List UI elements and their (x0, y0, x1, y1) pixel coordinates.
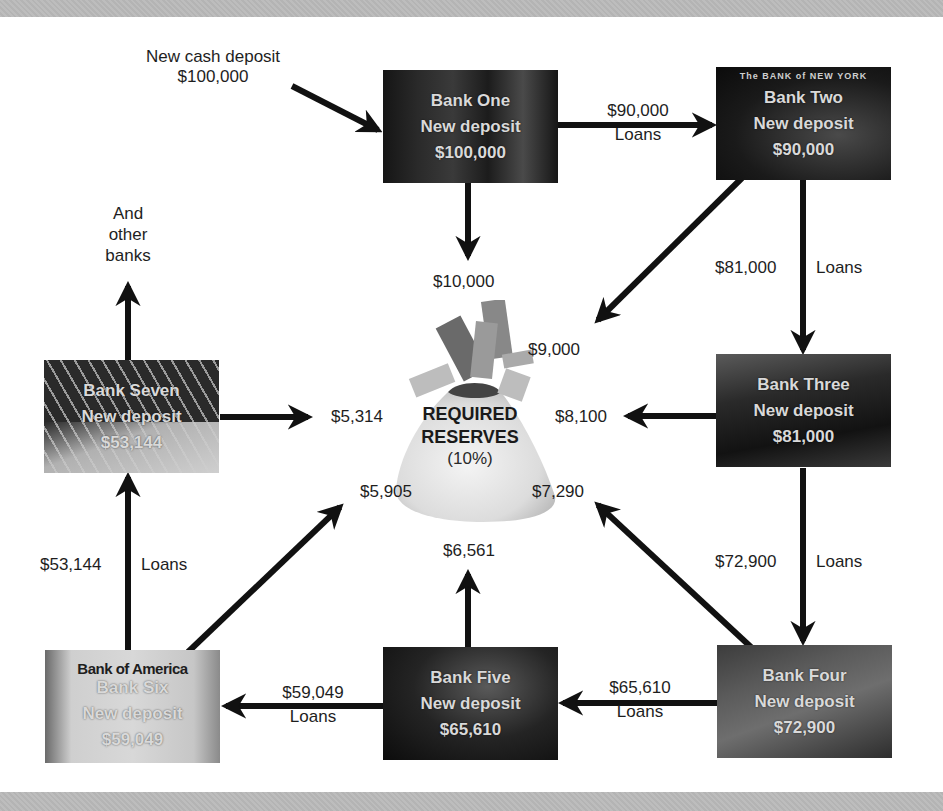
initial-deposit-label: New cash deposit $100,000 (133, 47, 293, 87)
other-banks-label: And other banks (88, 203, 168, 266)
loan-text: Loans (263, 707, 363, 727)
bank-one-box: Bank One New deposit $100,000 (383, 70, 558, 183)
photo-caption: The BANK of NEW YORK (716, 71, 891, 81)
deposit-amount: $65,610 (440, 720, 501, 740)
loan-amount: $90,000 (588, 101, 688, 121)
other-banks-line1: And (88, 203, 168, 224)
deposit-label: New deposit (754, 692, 854, 712)
deposit-amount: $53,144 (101, 433, 162, 453)
initial-deposit-text: New cash deposit (133, 47, 293, 67)
loan-text-3-4: Loans (816, 552, 862, 572)
deposit-label: New deposit (81, 407, 181, 427)
deposit-label: New deposit (753, 401, 853, 421)
other-banks-line2: other (88, 224, 168, 245)
bank-four-box: Bank Four New deposit $72,900 (717, 645, 892, 758)
loan-amount: $65,610 (590, 678, 690, 698)
loan-amount: $59,049 (263, 683, 363, 703)
deposit-amount: $81,000 (773, 427, 834, 447)
bank-name: Bank Six (97, 678, 169, 698)
deposit-label: New deposit (753, 114, 853, 134)
loan-text: Loans (590, 702, 690, 722)
bank-two-box: The BANK of NEW YORK Bank Two New deposi… (716, 67, 891, 180)
bank-name: Bank One (431, 91, 510, 111)
reserve-amount-bank-one: $10,000 (433, 272, 494, 292)
arrow-reserve-4 (598, 505, 752, 648)
bank-name: Bank Three (757, 375, 850, 395)
loan-text-6-7: Loans (141, 555, 187, 575)
initial-deposit-amount: $100,000 (133, 67, 293, 87)
deposit-amount: $72,900 (774, 718, 835, 738)
bank-five-box: Bank Five New deposit $65,610 (383, 647, 558, 760)
arrow-initial-deposit (292, 86, 378, 130)
bank-name: Bank Two (764, 88, 843, 108)
loan-text-2-3: Loans (816, 258, 862, 278)
deposit-label: New deposit (82, 704, 182, 724)
loan-amount-6-7: $53,144 (40, 555, 101, 575)
loan-label-5-6: $59,049 Loans (263, 683, 363, 727)
deposit-label: New deposit (420, 694, 520, 714)
arrow-reserve-2 (598, 178, 742, 320)
reserve-amount-bank-seven: $5,314 (331, 407, 383, 427)
loan-text: Loans (588, 125, 688, 145)
other-banks-line3: banks (88, 245, 168, 266)
loan-amount-3-4: $72,900 (715, 552, 776, 572)
photo-caption: Bank of America (45, 660, 220, 677)
deposit-amount: $90,000 (773, 140, 834, 160)
arrow-reserve-6 (188, 507, 340, 652)
bank-six-box: Bank of America Bank Six New deposit $59… (45, 650, 220, 763)
bank-name: Bank Seven (83, 381, 179, 401)
reserve-amount-bank-five: $6,561 (443, 541, 495, 561)
bank-name: Bank Four (762, 666, 846, 686)
loan-label-4-5: $65,610 Loans (590, 678, 690, 722)
deposit-amount: $59,049 (102, 730, 163, 750)
loan-label-1-2: $90,000 Loans (588, 101, 688, 145)
loan-amount-2-3: $81,000 (715, 258, 776, 278)
bank-name: Bank Five (430, 668, 510, 688)
reserve-amount-bank-four: $7,290 (532, 482, 584, 502)
reserve-amount-bank-six: $5,905 (360, 482, 412, 502)
deposit-amount: $100,000 (435, 143, 506, 163)
reserve-amount-bank-two: $9,000 (528, 340, 580, 360)
bank-seven-box: Bank Seven New deposit $53,144 (44, 360, 219, 473)
deposit-label: New deposit (420, 117, 520, 137)
bank-three-box: Bank Three New deposit $81,000 (716, 354, 891, 467)
reserve-amount-bank-three: $8,100 (555, 407, 607, 427)
